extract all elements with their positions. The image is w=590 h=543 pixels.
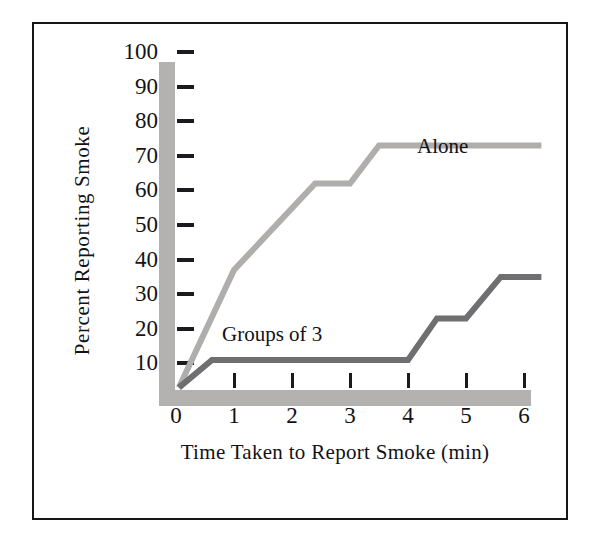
y-axis-title: Percent Reporting Smoke — [70, 101, 95, 381]
y-tick-mark — [177, 258, 194, 262]
x-tick-label: 1 — [214, 404, 254, 427]
x-tick-label: 4 — [388, 404, 428, 427]
y-tick-mark — [177, 188, 194, 192]
y-tick-label: 30 — [100, 282, 158, 305]
x-tick-mark — [349, 373, 352, 388]
y-axis-spine — [159, 62, 175, 406]
y-tick-mark — [177, 50, 194, 54]
x-tick-label: 5 — [446, 404, 486, 427]
x-tick-label: 0 — [156, 404, 196, 427]
y-tick-label: 10 — [100, 351, 158, 374]
y-tick-mark — [177, 154, 194, 158]
y-tick-mark — [177, 327, 194, 331]
y-tick-label: 50 — [100, 213, 158, 236]
x-axis-title: Time Taken to Report Smoke (min) — [120, 440, 550, 465]
y-tick-label: 90 — [100, 75, 158, 98]
x-tick-label: 3 — [330, 404, 370, 427]
x-tick-mark — [523, 373, 526, 388]
y-tick-mark — [177, 85, 194, 89]
chart-figure: Percent Reporting Smoke Time Taken to Re… — [0, 0, 590, 543]
series-label-alone: Alone — [417, 134, 468, 159]
y-tick-mark — [177, 292, 194, 296]
y-tick-label: 70 — [100, 144, 158, 167]
x-tick-mark — [291, 373, 294, 388]
y-tick-label: 60 — [100, 178, 158, 201]
y-tick-mark — [177, 119, 194, 123]
y-tick-mark — [177, 361, 194, 365]
x-tick-mark — [233, 373, 236, 388]
series-label-groups: Groups of 3 — [222, 322, 322, 347]
y-tick-label: 100 — [100, 40, 158, 63]
y-tick-label: 40 — [100, 248, 158, 271]
x-tick-mark — [465, 373, 468, 388]
x-tick-mark — [407, 373, 410, 388]
y-tick-label: 20 — [100, 317, 158, 340]
y-tick-mark — [177, 223, 194, 227]
y-tick-label: 80 — [100, 109, 158, 132]
x-tick-label: 2 — [272, 404, 312, 427]
x-tick-label: 6 — [504, 404, 544, 427]
